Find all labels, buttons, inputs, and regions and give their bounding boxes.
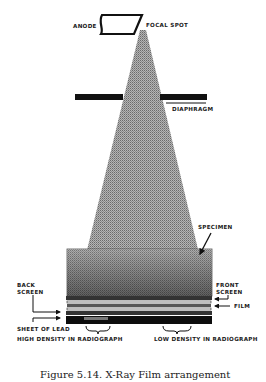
back-screen-label-line1: BACK [17, 282, 44, 289]
specimen-label: SPECIMEN [198, 224, 233, 231]
high-density-label: HIGH DENSITY IN RADIOGRAPH [17, 336, 123, 343]
back-screen-label: BACK SCREEN [17, 282, 44, 296]
film-layer [67, 304, 211, 307]
front-screen-label: FRONT SCREEN [216, 282, 243, 296]
diaphragm-right [160, 94, 207, 100]
front-screen-layer [66, 296, 212, 300]
diaphragm-label: DIAPHRAGM [172, 106, 213, 113]
high-density-brace [86, 326, 110, 334]
low-density-label: LOW DENSITY IN RADIOGRAPH [154, 336, 258, 343]
back-screen-label-line2: SCREEN [17, 289, 44, 296]
focal-spot-label: FOCAL SPOT [146, 22, 188, 29]
front-screen-label-line1: FRONT [216, 282, 243, 289]
anode-label: ANODE [73, 23, 97, 30]
back-screen-layer [66, 311, 212, 315]
xray-diagram [0, 0, 266, 382]
film-label: FILM [234, 303, 250, 310]
sheet-of-lead-label: SHEET OF LEAD [17, 326, 70, 333]
low-density-brace [163, 326, 191, 334]
front-screen-label-line2: SCREEN [216, 289, 243, 296]
anode-shape [101, 15, 142, 34]
figure-caption: Figure 5.14. X-Ray Film arrangement [40, 369, 230, 381]
diaphragm-left [75, 94, 123, 100]
